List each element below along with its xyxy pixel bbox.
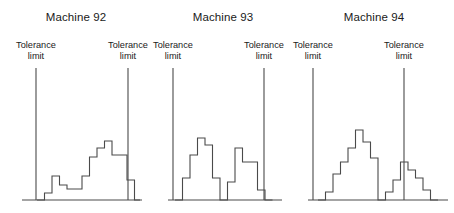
histogram-outline-machine-94	[318, 130, 438, 200]
histogram-machine-94	[308, 68, 448, 200]
histograms-svg	[0, 0, 454, 213]
histogram-outline-machine-92	[37, 141, 142, 200]
histogram-outline-machine-93	[175, 138, 273, 200]
histogram-machine-93	[168, 68, 282, 200]
svg-root	[22, 68, 448, 200]
process-capability-figure: Machine 92 Tolerance limit Tolerance lim…	[0, 0, 454, 213]
histogram-machine-92	[22, 68, 142, 200]
